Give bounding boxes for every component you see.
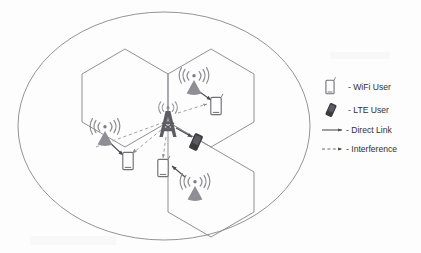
legend-row-wifi-user: - WiFi User [326,77,391,93]
link-interference-top [178,104,207,113]
legend: - WiFi User - LTE User - Direct Link - I… [322,77,397,154]
legend-label-direct-link: - Direct Link [346,125,393,135]
diagram-canvas: - WiFi User - LTE User - Direct Link - I… [0,0,421,253]
phone-outline-icon [326,77,336,93]
link-direct-lte [176,128,192,137]
legend-label-interference: - Interference [346,144,397,154]
wifi-ap-bottom [180,174,209,201]
wifi-user-bottom [158,156,170,177]
wifi-user-top [211,94,223,115]
legend-row-lte-user: - LTE User [325,103,389,118]
hex-cell-bottom [168,122,254,237]
link-interference-left [133,130,161,153]
wifi-ap-top [179,68,208,95]
legend-label-lte-user: - LTE User [348,105,389,115]
hex-cell-left [82,49,168,147]
legend-label-wifi-user: - WiFi User [348,82,391,92]
network-topology-figure: - WiFi User - LTE User - Direct Link - I… [0,0,421,253]
legend-row-direct-link: - Direct Link [322,125,393,135]
link-interference-bottom [163,137,166,158]
phone-filled-icon [325,103,337,118]
link-direct-bottom [172,166,185,177]
legend-row-interference: - Interference [322,144,397,154]
wifi-user-left [123,149,135,170]
